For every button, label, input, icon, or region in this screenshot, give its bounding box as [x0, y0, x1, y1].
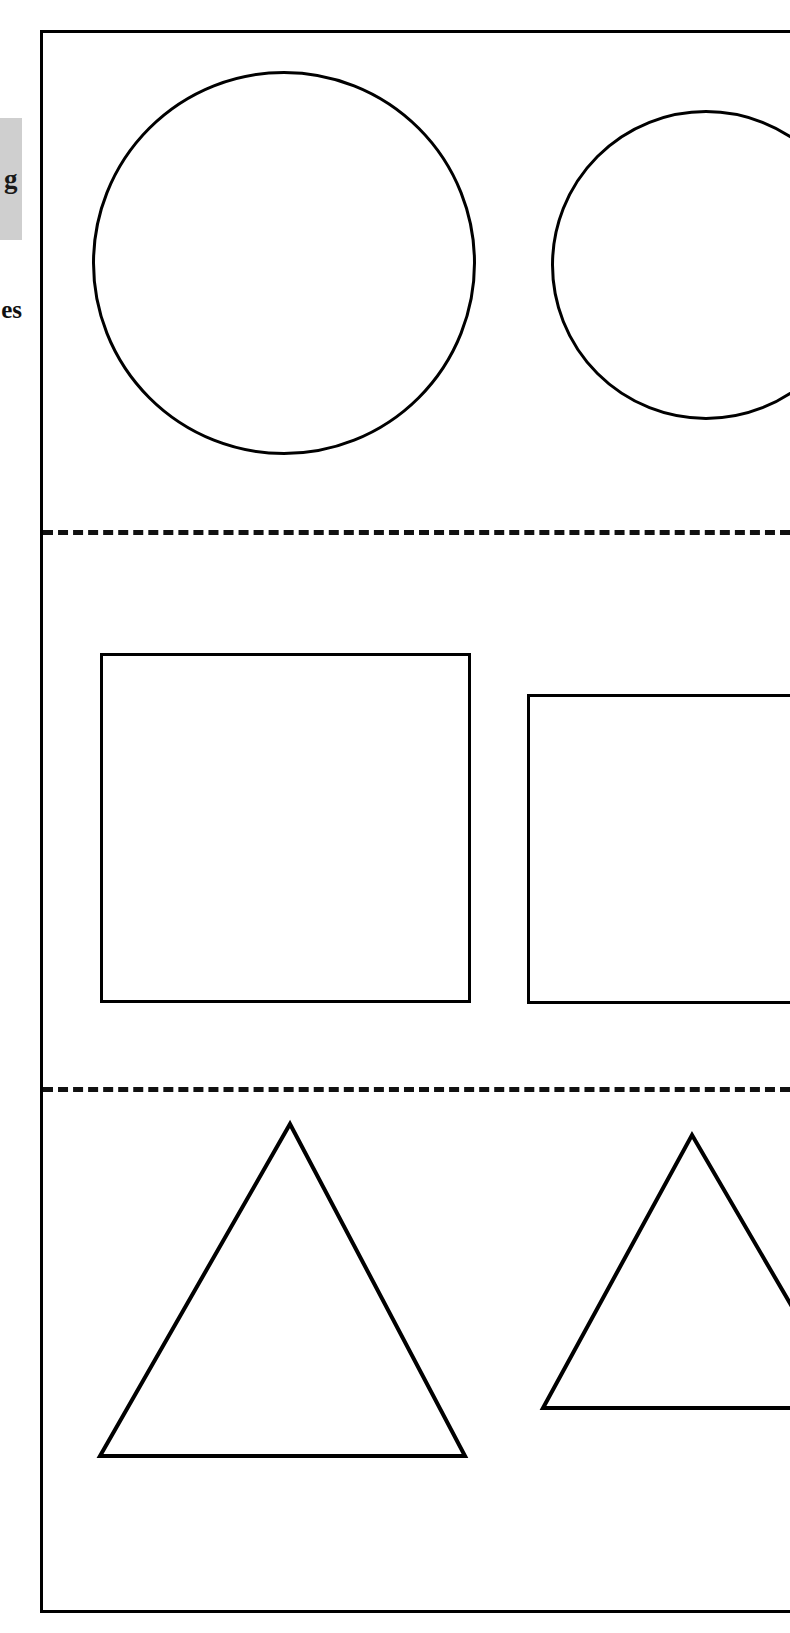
circle-large [92, 71, 476, 455]
triangle-row [0, 1090, 790, 1613]
square-row [0, 533, 790, 1087]
circle-row [0, 33, 790, 530]
triangle-small [533, 1130, 790, 1420]
square-large [100, 653, 471, 1003]
triangle-large [88, 1118, 478, 1464]
figure-page: g es [0, 0, 790, 1633]
square-small [527, 694, 790, 1004]
circle-small [551, 110, 790, 420]
